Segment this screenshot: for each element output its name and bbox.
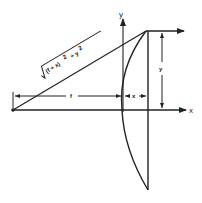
label-x: x <box>132 93 136 99</box>
dimension-x: x <box>125 93 146 99</box>
dimension-y: y <box>159 33 163 108</box>
hyp-sq1: 2 <box>62 53 69 60</box>
x-axis: x <box>13 106 193 115</box>
y-axis-label: y <box>119 10 123 19</box>
hyp-sq2: 2 <box>77 44 84 51</box>
label-y: y <box>159 66 163 72</box>
hyp-plus: + y <box>69 50 80 60</box>
hypotenuse-label: (f + x) 2 + y 2 <box>37 31 107 79</box>
lens-geometry-diagram: x y (f + x) 2 + y 2 f x y <box>0 0 202 203</box>
label-f: f <box>70 93 73 99</box>
x-axis-label: x <box>189 106 193 115</box>
